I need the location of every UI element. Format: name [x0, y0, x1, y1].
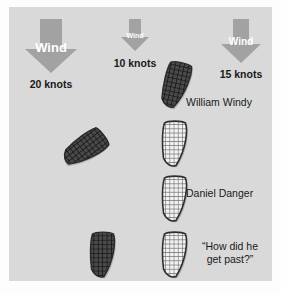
diagram-canvas: Wind 20 knots Wind 10 knots Wind 15 knot…	[0, 0, 281, 294]
wind-arrow-icon	[25, 19, 77, 73]
diagram-panel: Wind 20 knots Wind 10 knots Wind 15 knot…	[9, 7, 272, 281]
wind-speed-left: 20 knots	[18, 79, 84, 90]
wind-indicator-right: Wind	[221, 19, 261, 63]
label-quote: “How did he get past?”	[189, 240, 271, 265]
wind-speed-right: 15 knots	[208, 69, 272, 80]
boat-dark-lower-left	[89, 231, 117, 278]
wind-speed-center: 10 knots	[102, 58, 168, 69]
wind-arrow-icon	[121, 19, 149, 51]
wind-indicator-left: Wind	[25, 19, 77, 73]
wind-arrow-icon	[221, 19, 261, 63]
boat-light-upper	[161, 120, 189, 167]
boat-rogue-dark	[58, 123, 114, 175]
label-daniel-danger: Daniel Danger	[186, 187, 253, 200]
boat-light-lower	[161, 231, 189, 278]
label-william-windy: William Windy	[186, 96, 252, 109]
boat-daniel-danger	[161, 175, 189, 222]
wind-indicator-center: Wind	[121, 19, 149, 51]
